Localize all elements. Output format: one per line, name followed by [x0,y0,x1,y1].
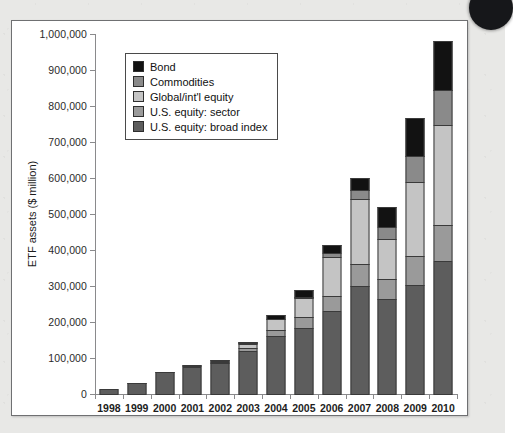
legend-item[interactable]: U.S. equity: sector [133,104,267,119]
y-tick-label: 900,000 [48,64,87,76]
bar-segment [294,298,313,318]
legend-label: Global/int'l equity [150,91,233,103]
x-tick-label: 2007 [348,402,371,414]
x-tick-label: 1998 [97,402,120,414]
x-tick-mark [401,394,402,399]
bar-segment [267,336,286,395]
bar-segment [406,118,425,157]
bar-stack[interactable] [127,383,146,394]
bar-stack[interactable] [155,372,174,394]
bar-stack[interactable] [322,245,341,394]
x-tick-label: 2001 [181,402,204,414]
legend-item[interactable]: Commodities [133,74,267,89]
y-tick-mark [90,34,95,35]
bar-segment [350,199,369,265]
y-tick-label: 300,000 [48,280,87,292]
bar-segment [406,285,425,394]
legend-item[interactable]: Bond [133,59,267,74]
x-tick-mark [151,394,152,399]
y-tick-mark [90,70,95,71]
y-tick-mark [90,142,95,143]
legend-label: Commodities [150,76,214,88]
bar-segment [434,225,453,261]
x-tick-label: 2000 [153,402,176,414]
legend-label: Bond [150,61,176,73]
bar-stack[interactable] [378,207,397,394]
y-tick-label: 100,000 [48,352,87,364]
y-tick-mark [90,106,95,107]
bar-segment [406,182,425,257]
x-tick-label: 1999 [125,402,148,414]
x-tick-label: 2004 [264,402,287,414]
bar-segment [378,239,397,279]
x-tick-mark [262,394,263,399]
chart-legend: BondCommoditiesGlobal/int'l equityU.S. e… [125,53,278,140]
bar-stack[interactable] [211,360,230,394]
y-axis-title-label: ETF assets ($ million) [26,161,38,267]
bar-stack[interactable] [183,365,202,394]
bar-segment [127,383,146,395]
y-axis-title: ETF assets ($ million) [24,34,40,394]
y-tick-mark [90,250,95,251]
x-tick-mark [206,394,207,399]
bar-segment [350,286,369,394]
legend-label: U.S. equity: broad index [150,121,267,133]
bar-segment [406,156,425,182]
x-tick-mark [346,394,347,399]
bar-segment [350,178,369,191]
y-tick-label: 1,000,000 [39,28,87,40]
x-tick-label: 2003 [236,402,259,414]
legend-label: U.S. equity: sector [150,106,240,118]
chart-figure: ETF assets ($ million) 0100,000200,00030… [11,20,468,416]
y-tick-label: 800,000 [48,100,87,112]
y-tick-mark [90,358,95,359]
bar-segment [378,207,397,228]
x-tick-mark [234,394,235,399]
x-tick-label: 2010 [431,402,454,414]
bar-segment [434,125,453,226]
legend-swatch-icon [133,76,144,87]
bar-stack[interactable] [267,315,286,394]
legend-swatch-icon [133,106,144,117]
x-tick-label: 2005 [292,402,315,414]
x-tick-mark [290,394,291,399]
bar-stack[interactable] [99,389,118,394]
bar-stack[interactable] [406,118,425,394]
bar-stack[interactable] [350,178,369,394]
bar-stack[interactable] [294,290,313,394]
x-tick-mark [123,394,124,399]
x-tick-mark [373,394,374,399]
bar-segment [434,41,453,91]
x-tick-label: 2009 [404,402,427,414]
legend-swatch-icon [133,91,144,102]
bar-segment [294,328,313,395]
bar-segment [155,372,174,395]
bar-segment [322,257,341,297]
bar-segment [406,256,425,286]
bar-segment [434,261,453,395]
y-tick-label: 600,000 [48,172,87,184]
legend-item[interactable]: U.S. equity: broad index [133,119,267,134]
bar-segment [322,296,341,311]
y-tick-label: 400,000 [48,244,87,256]
y-tick-label: 200,000 [48,316,87,328]
x-tick-label: 2006 [320,402,343,414]
legend-item[interactable]: Global/int'l equity [133,89,267,104]
bar-segment [378,227,397,240]
legend-swatch-icon [133,121,144,132]
x-tick-mark [457,394,458,399]
bar-stack[interactable] [434,41,453,394]
x-tick-mark [318,394,319,399]
bar-segment [267,319,286,331]
bar-segment [322,311,341,395]
bar-stack[interactable] [239,342,258,394]
y-tick-label: 700,000 [48,136,87,148]
bar-segment [99,389,118,394]
bar-segment [239,351,258,395]
bar-segment [434,90,453,125]
x-tick-label: 2008 [376,402,399,414]
x-tick-mark [95,394,96,399]
y-tick-label: 500,000 [48,208,87,220]
y-tick-mark [90,178,95,179]
